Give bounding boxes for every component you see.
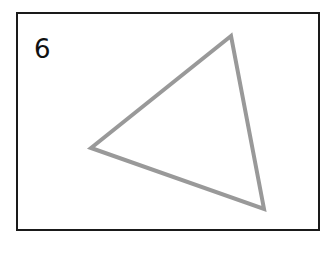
triangle-shape	[0, 0, 331, 253]
